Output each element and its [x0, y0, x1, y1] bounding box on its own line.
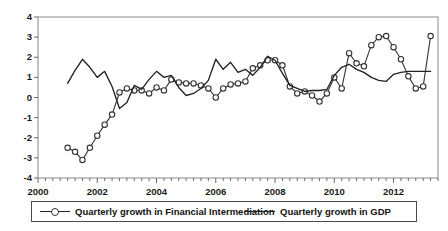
series-marker-0: [65, 145, 70, 150]
y-axis-label-5: -1: [4, 112, 32, 123]
series-marker-0: [109, 112, 114, 117]
series-marker-0: [235, 81, 240, 86]
legend-label-gdp: Quarterly growth in GDP: [280, 206, 391, 217]
series-marker-0: [161, 88, 166, 93]
y-axis-label-3: 1: [4, 71, 32, 82]
y-axis-label-2: 2: [4, 51, 32, 62]
x-axis-label-6: 2012: [370, 186, 418, 197]
series-marker-0: [87, 145, 92, 150]
y-axis-label-0: 4: [4, 11, 32, 22]
series-marker-0: [346, 51, 351, 56]
series-marker-0: [361, 64, 366, 69]
series-marker-0: [383, 33, 388, 38]
series-marker-0: [398, 57, 403, 62]
x-axis-label-5: 2010: [310, 186, 358, 197]
series-marker-0: [324, 91, 329, 96]
plot-frame: [38, 17, 438, 178]
legend-marker-line-icon: [245, 206, 275, 218]
series-marker-0: [183, 81, 188, 86]
legend-entry-gdp[interactable]: Quarterly growth in GDP: [245, 202, 391, 221]
series-marker-0: [102, 122, 107, 127]
series-marker-0: [295, 91, 300, 96]
series-line-0: [68, 36, 431, 160]
series-marker-0: [354, 61, 359, 66]
series-marker-0: [72, 149, 77, 154]
series-marker-0: [317, 99, 322, 104]
series-marker-0: [80, 157, 85, 162]
series-marker-0: [95, 133, 100, 138]
series-marker-0: [369, 42, 374, 47]
chart-legend: Quarterly growth in Financial Intermedia…: [31, 201, 417, 222]
series-marker-0: [124, 86, 129, 91]
series-marker-0: [213, 95, 218, 100]
series-marker-0: [250, 66, 255, 71]
series-marker-0: [420, 84, 425, 89]
series-line-1: [68, 56, 431, 108]
x-axis-label-2: 2004: [133, 186, 181, 197]
x-axis-label-0: 2000: [14, 186, 62, 197]
legend-entry-financial-intermediation[interactable]: Quarterly growth in Financial Intermedia…: [40, 202, 275, 221]
series-marker-0: [146, 91, 151, 96]
y-axis-label-1: 3: [4, 31, 32, 42]
series-marker-0: [154, 85, 159, 90]
y-axis-label-6: -2: [4, 132, 32, 143]
series-marker-0: [376, 34, 381, 39]
series-marker-0: [243, 79, 248, 84]
series-marker-0: [406, 74, 411, 79]
series-marker-0: [220, 86, 225, 91]
x-axis-label-1: 2002: [73, 186, 121, 197]
legend-marker-circle-line-icon: [40, 206, 70, 218]
series-marker-0: [206, 86, 211, 91]
x-axis-label-4: 2008: [251, 186, 299, 197]
series-marker-0: [117, 90, 122, 95]
series-marker-0: [391, 44, 396, 49]
series-marker-0: [309, 93, 314, 98]
series-marker-0: [413, 86, 418, 91]
x-axis-label-3: 2006: [192, 186, 240, 197]
y-axis-label-4: 0: [4, 92, 32, 103]
series-marker-0: [228, 82, 233, 87]
series-marker-0: [428, 33, 433, 38]
chart-container: 43210-1-2-3-4 20002002200420062008201020…: [0, 0, 448, 231]
series-marker-0: [191, 81, 196, 86]
series-marker-0: [339, 86, 344, 91]
series-marker-0: [280, 63, 285, 68]
y-axis-label-7: -3: [4, 152, 32, 163]
y-axis-label-8: -4: [4, 172, 32, 183]
